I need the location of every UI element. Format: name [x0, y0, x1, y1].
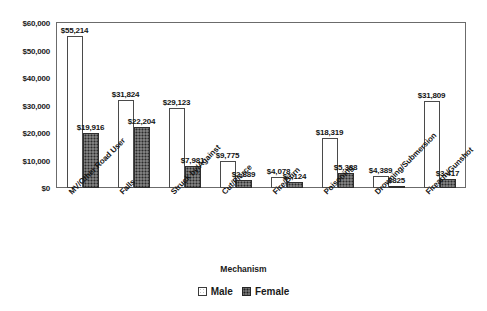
bar-value-label: $9,775: [216, 151, 239, 160]
bar-male: [67, 36, 83, 188]
y-axis-tick-label: $30,000: [22, 101, 50, 110]
legend-item-male: Male: [198, 286, 233, 297]
bar-value-label: $18,319: [316, 128, 344, 137]
bar-value-label: $31,824: [112, 90, 140, 99]
legend-item-female: Female: [242, 286, 289, 297]
x-axis-title: Mechanism: [0, 264, 487, 274]
grouped-bar-chart: $60,000$50,000$40,000$30,000$20,000$10,0…: [0, 0, 487, 311]
y-axis-tick-label: $60,000: [22, 19, 50, 28]
bar-group: $31,824$22,204: [118, 23, 150, 188]
legend-label-female: Female: [255, 286, 289, 297]
y-axis-tick-label: $0: [42, 184, 51, 193]
y-axis-tick-label: $40,000: [22, 74, 50, 83]
bar-female: [389, 186, 405, 188]
bar-value-label: $55,214: [61, 26, 89, 35]
x-axis-category-labels: MV/Other Road UserFallsStruck by/Against…: [57, 190, 465, 260]
y-axis-tick-label: $50,000: [22, 46, 50, 55]
bar-value-label: $19,916: [77, 123, 105, 132]
bar-value-label: $22,204: [128, 117, 156, 126]
bar-female: [134, 127, 150, 188]
legend-swatch-male-icon: [198, 287, 207, 296]
y-axis-tick-label: $10,000: [22, 156, 50, 165]
bar-group: $4,078$2,124: [271, 23, 303, 188]
legend-label-male: Male: [211, 286, 233, 297]
y-axis: $60,000$50,000$40,000$30,000$20,000$10,0…: [0, 22, 54, 189]
legend-swatch-female-icon: [242, 287, 251, 296]
bar-value-label: $29,123: [163, 98, 191, 107]
y-axis-tick-label: $20,000: [22, 129, 50, 138]
chart-legend: Male Female: [0, 286, 487, 297]
bar-value-label: $31,809: [418, 91, 446, 100]
